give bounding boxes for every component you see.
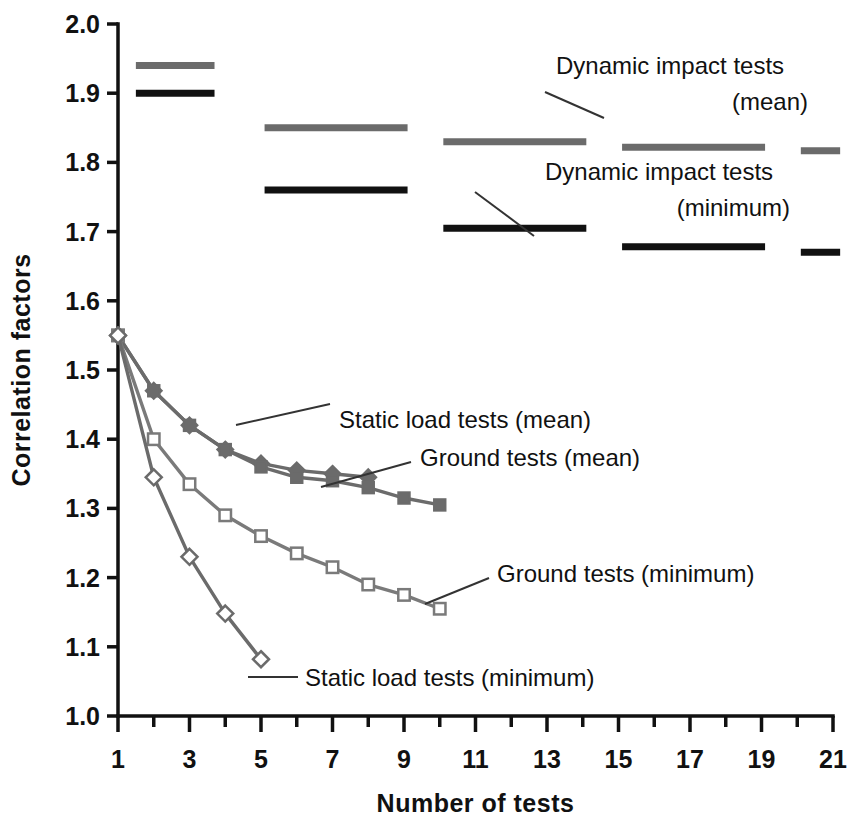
marker-open-diamond <box>182 549 198 565</box>
x-tick-label: 9 <box>397 745 411 773</box>
x-tick-label: 17 <box>676 745 704 773</box>
chart-figure: 1.01.11.21.31.41.51.61.71.81.92.01357911… <box>0 0 856 840</box>
marker-filled-square <box>434 499 445 510</box>
marker-filled-square <box>148 385 159 396</box>
marker-filled-square <box>291 472 302 483</box>
series-line <box>118 335 261 659</box>
marker-filled-square <box>363 482 374 493</box>
annotation-dynamic-impact-minimum: Dynamic impact tests <box>545 158 773 185</box>
series-line <box>118 335 368 477</box>
marker-open-square <box>220 510 231 521</box>
marker-open-square <box>434 603 445 614</box>
annotation-leader-line <box>425 578 489 604</box>
x-tick-label: 19 <box>748 745 776 773</box>
y-tick-label: 1.2 <box>65 564 100 592</box>
marker-open-square <box>327 562 338 573</box>
y-tick-label: 1.0 <box>65 702 100 730</box>
x-tick-label: 15 <box>605 745 633 773</box>
x-tick-label: 21 <box>819 745 847 773</box>
y-tick-label: 1.6 <box>65 287 100 315</box>
marker-open-square <box>363 579 374 590</box>
x-tick-label: 5 <box>254 745 268 773</box>
annotation-leader-line <box>545 92 604 118</box>
y-tick-label: 1.3 <box>65 494 100 522</box>
annotation-dynamic-impact-mean: Dynamic impact tests <box>556 52 784 79</box>
x-tick-label: 7 <box>326 745 340 773</box>
annotation-ground-mean: Ground tests (mean) <box>420 444 640 471</box>
annotation-ground-minimum: Ground tests (minimum) <box>497 560 754 587</box>
y-tick-label: 1.7 <box>65 218 100 246</box>
marker-open-square <box>398 589 409 600</box>
x-tick-label: 11 <box>462 745 489 773</box>
x-tick-label: 3 <box>183 745 197 773</box>
annotation-static-load-mean: Static load tests (mean) <box>339 406 591 433</box>
y-tick-label: 1.1 <box>65 633 100 661</box>
y-tick-label: 1.4 <box>65 425 100 453</box>
y-tick-label: 1.9 <box>65 79 100 107</box>
correlation-factors-chart: 1.01.11.21.31.41.51.61.71.81.92.01357911… <box>0 0 856 840</box>
marker-open-square <box>148 433 159 444</box>
y-axis-title: Correlation factors <box>7 253 35 486</box>
x-axis-title: Number of tests <box>377 789 575 817</box>
marker-open-diamond <box>146 469 162 485</box>
annotation-static-load-minimum: Static load tests (minimum) <box>305 664 594 691</box>
marker-open-square <box>184 478 195 489</box>
x-tick-label: 13 <box>533 745 561 773</box>
marker-open-square <box>291 548 302 559</box>
marker-filled-square <box>255 461 266 472</box>
marker-filled-square <box>184 420 195 431</box>
annotation-dynamic-impact-mean-sub: (mean) <box>732 88 808 115</box>
marker-filled-square <box>220 444 231 455</box>
annotation-dynamic-impact-minimum-sub: (minimum) <box>677 194 790 221</box>
annotation-leader-line <box>236 404 330 425</box>
x-tick-label: 1 <box>111 745 125 773</box>
marker-filled-square <box>398 492 409 503</box>
marker-open-square <box>255 530 266 541</box>
y-tick-label: 2.0 <box>65 10 100 38</box>
y-tick-label: 1.5 <box>65 356 100 384</box>
y-tick-label: 1.8 <box>65 148 100 176</box>
